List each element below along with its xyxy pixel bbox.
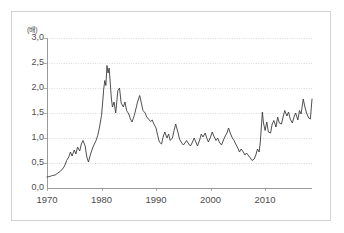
x-tick-label: 2010 — [255, 194, 276, 205]
x-tick-label: 1980 — [91, 194, 112, 205]
x-axis-tick-labels: 19701980199020002010 — [0, 0, 344, 233]
x-tick-label: 2000 — [200, 194, 221, 205]
x-tick-label: 1970 — [36, 194, 57, 205]
chart-screenshot: (배) 3,02,52,01,51,00,50,0 19701980199020… — [0, 0, 344, 233]
x-tick-label: 1990 — [145, 194, 166, 205]
